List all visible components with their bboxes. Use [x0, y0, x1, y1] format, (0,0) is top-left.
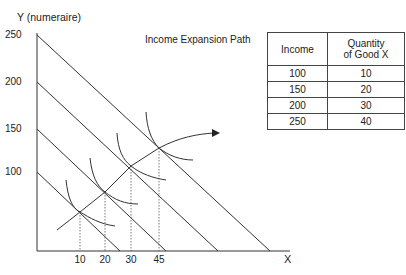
income-expansion-path [57, 133, 214, 230]
income-quantity-table: Income Quantity of Good X 100 10 150 20 … [267, 32, 405, 130]
cell-income: 150 [268, 82, 328, 98]
table-row: 250 40 [268, 114, 405, 130]
indifference-curve-4 [146, 112, 193, 160]
table-row: 200 30 [268, 98, 405, 114]
cell-income: 200 [268, 98, 328, 114]
cell-quantity: 20 [328, 82, 405, 98]
cell-quantity: 10 [328, 66, 405, 82]
budget-line-200 [37, 82, 218, 251]
cell-quantity: 40 [328, 114, 405, 130]
cell-income: 250 [268, 114, 328, 130]
table-header-row: Income Quantity of Good X [268, 33, 405, 66]
header-quantity-line1: Quantity [328, 38, 404, 49]
header-quantity: Quantity of Good X [328, 33, 405, 66]
arrow-right-icon [212, 129, 220, 137]
table-row: 150 20 [268, 82, 405, 98]
cell-income: 100 [268, 66, 328, 82]
cell-quantity: 30 [328, 98, 405, 114]
table-row: 100 10 [268, 66, 405, 82]
header-quantity-line2: of Good X [328, 49, 404, 60]
header-income: Income [268, 33, 328, 66]
